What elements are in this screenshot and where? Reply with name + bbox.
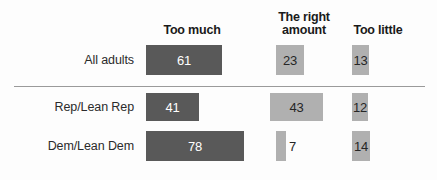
- bar-1-2: 12: [352, 93, 368, 121]
- column-header-line-1: The right: [278, 10, 330, 24]
- row-label-wrapper: Dem/Lean Dem: [0, 130, 140, 162]
- column-header-too-little: Too little: [336, 24, 420, 37]
- bar-value-0-2: 13: [353, 53, 367, 68]
- bar-value-2-2: 14: [354, 139, 368, 154]
- bar-0-1: 23: [276, 45, 304, 75]
- bar-value-2-1: 7: [289, 131, 296, 161]
- chart-row-all-adults: All adults 612313: [0, 44, 437, 76]
- row-label-wrapper: All adults: [0, 44, 140, 76]
- bar-value-1-0: 41: [165, 100, 179, 115]
- bar-2-0: 78: [146, 131, 244, 161]
- bar-chart: Too much The right amount Too little All…: [0, 0, 437, 180]
- bar-value-2-0: 78: [188, 139, 202, 154]
- chart-row-rep-lean-rep: Rep/Lean Rep 414312: [0, 92, 437, 122]
- chart-row-dem-lean-dem: Dem/Lean Dem 78714: [0, 130, 437, 162]
- bar-value-0-0: 61: [177, 53, 191, 68]
- row-label-wrapper: Rep/Lean Rep: [0, 92, 140, 122]
- bar-1-0: 41: [146, 93, 199, 121]
- column-header-too-much: Too much: [146, 24, 238, 37]
- bar-2-2: 14: [352, 131, 370, 161]
- row-label-dem-lean-dem: Dem/Lean Dem: [48, 139, 134, 153]
- bar-0-2: 13: [352, 45, 369, 75]
- row-label-rep-lean-rep: Rep/Lean Rep: [55, 100, 134, 114]
- bar-0-0: 61: [146, 45, 222, 75]
- row-divider: [14, 86, 425, 87]
- bar-value-1-2: 12: [353, 100, 367, 115]
- bar-value-0-1: 23: [283, 53, 297, 68]
- row-label-all-adults: All adults: [84, 53, 134, 67]
- bar-1-1: 43: [270, 93, 323, 121]
- bar-2-1: [276, 131, 286, 161]
- bar-value-1-1: 43: [289, 100, 303, 115]
